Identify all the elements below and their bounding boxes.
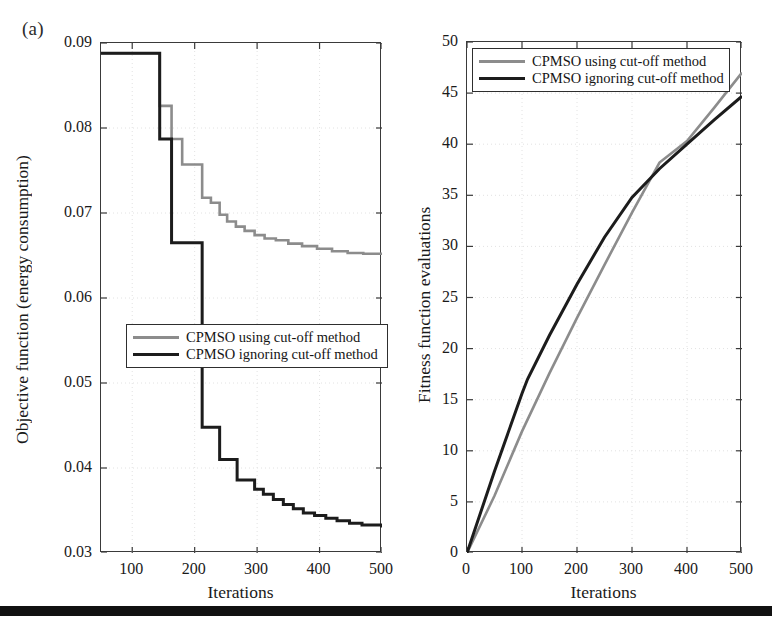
figure-container: (a) Objective function (energy consumpti… <box>0 0 772 629</box>
right-chart-x-axis-label: Iterations <box>466 582 741 603</box>
left-legend-label-ignoring: CPMSO ignoring cut-off method <box>186 346 378 363</box>
left-chart-y-axis-label: Objective function (energy consumption) <box>12 70 34 530</box>
right-chart-canvas <box>467 42 742 553</box>
right-chart-x-tick-label: 0 <box>462 560 470 578</box>
left-chart-x-tick-label: 400 <box>307 560 331 578</box>
right-chart-y-tick-label: 15 <box>404 390 458 408</box>
left-chart-plot-area <box>100 42 381 552</box>
right-chart-y-tick-label: 40 <box>404 134 458 152</box>
right-legend-swatch-using <box>479 60 525 63</box>
left-chart-y-tick-label: 0.03 <box>38 543 92 561</box>
right-chart-y-tick-label: 35 <box>404 185 458 203</box>
left-chart-y-tick-label: 0.06 <box>38 288 92 306</box>
left-chart-y-tick-label: 0.05 <box>38 373 92 391</box>
right-chart-x-tick-label: 400 <box>674 560 698 578</box>
left-chart-x-tick-label: 500 <box>369 560 393 578</box>
left-chart-x-tick-label: 200 <box>182 560 206 578</box>
right-chart-y-tick-label: 25 <box>404 288 458 306</box>
right-chart-x-tick-label: 500 <box>729 560 753 578</box>
right-chart-y-tick-label: 50 <box>404 32 458 50</box>
left-legend-label-using: CPMSO using cut-off method <box>186 329 360 346</box>
left-chart-x-tick-label: 300 <box>244 560 268 578</box>
left-chart-y-tick-label: 0.04 <box>38 458 92 476</box>
right-legend-swatch-ignoring <box>479 77 525 80</box>
right-legend-row-ignoring: CPMSO ignoring cut-off method <box>479 70 722 87</box>
left-chart-x-axis-label: Iterations <box>100 582 381 603</box>
right-chart-y-tick-label: 10 <box>404 441 458 459</box>
left-chart-x-tick-label: 100 <box>119 560 143 578</box>
left-legend-row-using: CPMSO using cut-off method <box>133 329 380 346</box>
bottom-divider-rule <box>0 606 772 616</box>
left-chart-y-tick-label: 0.08 <box>38 118 92 136</box>
right-chart-y-tick-label: 5 <box>404 492 458 510</box>
right-chart-y-tick-label: 0 <box>404 543 458 561</box>
right-chart-y-tick-label: 45 <box>404 83 458 101</box>
right-chart-legend: CPMSO using cut-off method CPMSO ignorin… <box>472 48 730 92</box>
right-legend-label-ignoring: CPMSO ignoring cut-off method <box>532 70 724 87</box>
left-legend-row-ignoring: CPMSO ignoring cut-off method <box>133 346 380 363</box>
right-legend-label-using: CPMSO using cut-off method <box>532 53 706 70</box>
right-chart-y-tick-label: 20 <box>404 339 458 357</box>
left-legend-swatch-using <box>133 336 179 339</box>
right-legend-row-using: CPMSO using cut-off method <box>479 53 722 70</box>
right-chart-x-tick-label: 200 <box>564 560 588 578</box>
left-chart-canvas <box>101 43 382 553</box>
right-chart-y-tick-label: 30 <box>404 236 458 254</box>
right-chart-x-tick-label: 300 <box>619 560 643 578</box>
right-chart-x-tick-label: 100 <box>509 560 533 578</box>
left-chart-legend: CPMSO using cut-off method CPMSO ignorin… <box>126 324 388 368</box>
left-chart-y-tick-label: 0.09 <box>38 33 92 51</box>
left-legend-swatch-ignoring <box>133 353 179 356</box>
left-chart-y-tick-label: 0.07 <box>38 203 92 221</box>
right-chart-plot-area <box>466 41 741 552</box>
